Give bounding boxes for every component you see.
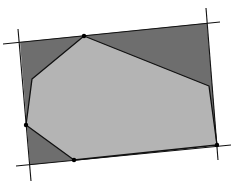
geometry-diagram: [0, 0, 236, 187]
vertex-bottom: [72, 158, 76, 162]
vertex-top: [82, 34, 86, 38]
vertex-bottom-right: [215, 143, 219, 147]
vertex-left: [24, 123, 28, 127]
